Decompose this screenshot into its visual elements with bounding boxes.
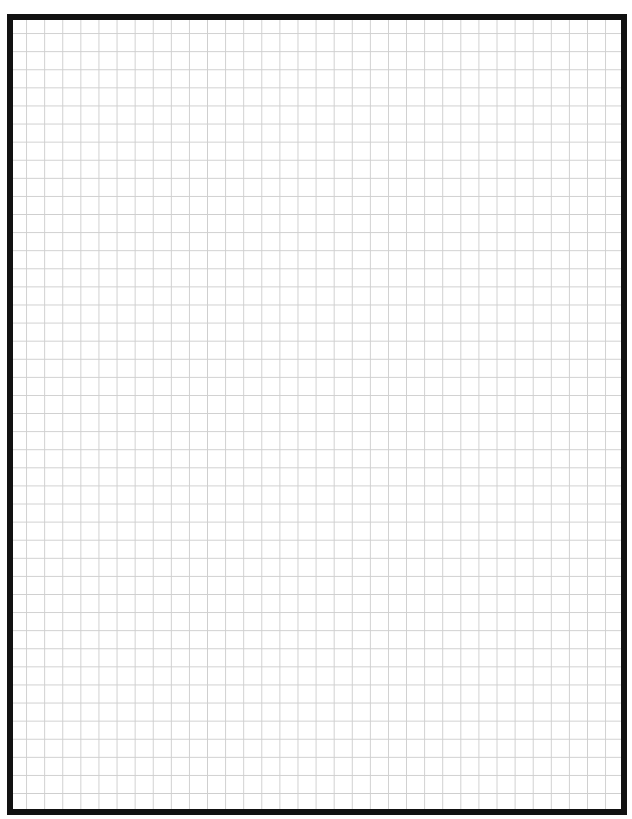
grid-frame bbox=[7, 14, 627, 815]
graph-paper-page bbox=[0, 0, 632, 819]
